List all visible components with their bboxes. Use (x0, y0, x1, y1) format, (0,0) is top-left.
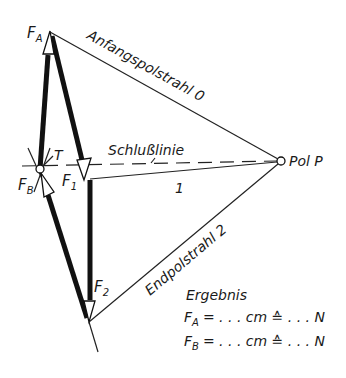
label-f1: F1 (62, 172, 77, 192)
label-ray-0: Anfangspolstrahl 0 (84, 26, 208, 104)
force-fb-vector (48, 195, 87, 318)
result-title: Ergebnis (186, 287, 247, 303)
label-f2: F2 (94, 278, 109, 298)
label-fa: FA (27, 24, 43, 44)
force-f1-vector (52, 36, 82, 160)
point-t-icon (36, 165, 44, 173)
force-fa-vector (40, 55, 48, 169)
extension-line (89, 322, 98, 352)
label-ray-1: 1 (175, 180, 184, 196)
t-leader-line (43, 156, 53, 166)
closing-line-tick (151, 158, 155, 163)
ray-0-line (50, 32, 278, 159)
result-row-fb: FB= . . . cm ≙ . . . N (184, 333, 325, 352)
label-t: T (54, 147, 64, 163)
force-polygon-diagram: FA FB F1 F2 T Schlußlinie Pol P 1 Anfang… (0, 0, 346, 378)
label-pole-p: Pol P (289, 153, 323, 169)
result-row-fa: FA= . . . cm ≙ . . . N (184, 309, 325, 328)
arrowhead-f1-icon (77, 158, 91, 180)
arrowhead-fa-icon (43, 31, 54, 54)
arrowhead-fb-icon (41, 173, 54, 197)
label-fb: FB (18, 176, 34, 196)
pole-p-icon (277, 157, 285, 165)
label-closing-line: Schlußlinie (108, 142, 184, 158)
